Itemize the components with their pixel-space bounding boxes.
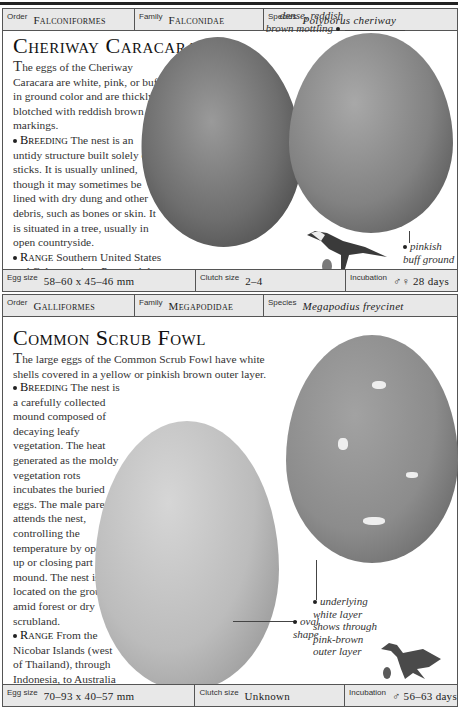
- egg-stats-footer: Egg size 58–60 x 45–46 mm Clutch size 2–…: [3, 269, 457, 291]
- range-label: Range: [20, 628, 53, 642]
- family-label: Family: [139, 12, 163, 21]
- range-label: Range: [20, 250, 53, 264]
- species-cell: Species Megapodius freycinet: [264, 295, 457, 316]
- bullet-icon: [13, 386, 17, 390]
- egg-size-label: Egg size: [7, 273, 38, 282]
- family-label: Family: [139, 298, 163, 307]
- egg-size-label: Egg size: [7, 688, 38, 697]
- incubation-label: Incubation: [349, 688, 386, 697]
- entry-common-scrub-fowl: Order Galliformes Family Megapodidae Spe…: [2, 294, 458, 707]
- family-cell: Family Megapodidae: [135, 295, 264, 316]
- description-intro: The large eggs of the Common Scrub Fowl …: [13, 351, 283, 381]
- species-title: Common Scrub Fowl: [13, 325, 206, 351]
- breeding-label: Breeding: [20, 133, 68, 147]
- bullet-icon: [13, 139, 17, 143]
- scrub-fowl-egg-side-photo: [95, 421, 279, 691]
- egg-stats-footer: Egg size 70–93 x 40–57 mm Clutch size Un…: [3, 684, 457, 706]
- bullet-icon: [13, 256, 17, 260]
- taxonomy-header: Order Galliformes Family Megapodidae Spe…: [3, 295, 457, 317]
- breeding-text: The nest is an untidy structure built so…: [13, 134, 156, 248]
- species-label: Species: [268, 298, 296, 307]
- annotation-text: pinkish buff ground: [403, 240, 454, 265]
- order-label: Order: [7, 298, 27, 307]
- species-title: Cheriway Caracara: [13, 33, 197, 59]
- incubation-value: ♂ 56–63 days: [392, 690, 457, 702]
- annotation-layer: underlying white layer shows through pin…: [313, 595, 383, 658]
- annotation-leader-line: [345, 30, 405, 31]
- incubation-cell: Incubation ♂ 56–63 days: [345, 685, 457, 706]
- clutch-size-value: 2–4: [245, 275, 262, 287]
- egg-size-value: 70–93 x 40–57 mm: [44, 690, 135, 702]
- annotation-text: underlying white layer shows through pin…: [313, 595, 377, 657]
- clutch-size-label: Clutch size: [200, 273, 239, 282]
- page-top-rule: [0, 2, 458, 5]
- order-label: Order: [7, 12, 27, 21]
- caracara-bird-illustration: [303, 221, 393, 271]
- egg-size-cell: Egg size 70–93 x 40–57 mm: [3, 685, 195, 706]
- annotation-leader-line: [233, 621, 297, 622]
- incubation-cell: Incubation ♂♀ 28 days: [346, 270, 457, 291]
- pointer-dot-icon: [313, 600, 317, 604]
- egg-size-cell: Egg size 58–60 x 45–46 mm: [3, 270, 196, 291]
- caracara-egg-top-photo: [289, 33, 453, 233]
- breeding-label: Breeding: [20, 380, 68, 394]
- annotation-leader-line: [316, 560, 317, 600]
- scrub-fowl-egg-top-photo: [286, 335, 458, 563]
- family-value: Megapodidae: [169, 300, 234, 312]
- taxonomy-header: Order Falconiformes Family Falconidae Sp…: [3, 9, 457, 31]
- intro-text: he eggs of the Cheriway Caracara are whi…: [13, 61, 161, 131]
- clutch-size-label: Clutch size: [199, 688, 238, 697]
- entry-cheriway-caracara: Order Falconiformes Family Falconidae Sp…: [2, 8, 458, 292]
- incubation-label: Incubation: [350, 273, 387, 282]
- annotation-ground: pinkish buff ground: [403, 240, 459, 265]
- pointer-dot-icon: [403, 245, 407, 249]
- family-value: Falconidae: [169, 14, 225, 26]
- bullet-icon: [13, 634, 17, 638]
- incubation-value: ♂♀ 28 days: [393, 275, 449, 287]
- annotation-mottling: dense, reddish brown mottling: [253, 9, 343, 34]
- order-cell: Order Galliformes: [3, 295, 135, 316]
- clutch-size-value: Unknown: [245, 690, 291, 702]
- egg-size-value: 58–60 x 45–46 mm: [44, 275, 135, 287]
- order-cell: Order Falconiformes: [3, 9, 135, 30]
- drop-cap: T: [13, 58, 22, 74]
- scrub-fowl-bird-illustration: [379, 633, 449, 683]
- intro-text: he large eggs of the Common Scrub Fowl h…: [13, 353, 266, 380]
- family-cell: Family Falconidae: [135, 9, 264, 30]
- pointer-dot-icon: [336, 27, 340, 31]
- drop-cap: T: [13, 350, 22, 366]
- annotation-text: dense, reddish brown mottling: [266, 9, 343, 34]
- clutch-size-cell: Clutch size Unknown: [195, 685, 345, 706]
- order-value: Galliformes: [33, 300, 94, 312]
- clutch-size-cell: Clutch size 2–4: [196, 270, 346, 291]
- description: The eggs of the Cheriway Caracara are wh…: [13, 59, 163, 294]
- species-value: Megapodius freycinet: [302, 300, 403, 312]
- order-value: Falconiformes: [33, 14, 105, 26]
- pointer-dot-icon: [293, 620, 297, 624]
